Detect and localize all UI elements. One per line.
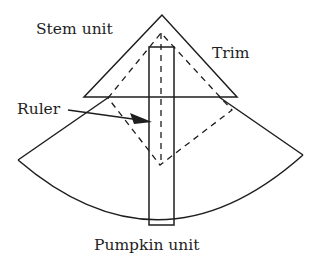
trim-label: Trim	[212, 44, 250, 62]
pumpkin-unit-label: Pumpkin unit	[94, 236, 200, 254]
pumpkin-stem-diagram: Stem unit Trim Ruler Pumpkin unit	[0, 0, 314, 259]
stem-unit-label: Stem unit	[36, 20, 114, 38]
ruler-label: Ruler	[17, 100, 61, 118]
